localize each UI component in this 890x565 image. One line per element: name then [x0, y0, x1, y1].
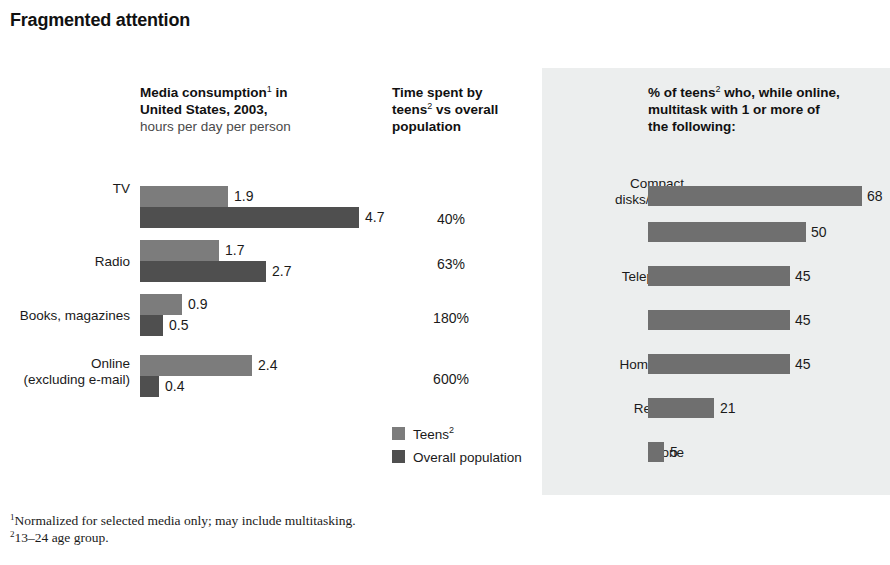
bar-none: [648, 442, 664, 462]
bar-value-overall-radio: 2.7: [272, 261, 291, 282]
legend-item-teens: Teens2: [392, 425, 522, 448]
header-media-line2: United States, 2003,: [140, 102, 268, 117]
bar-overall-radio: [140, 261, 266, 282]
bar-value-teens-books: 0.9: [188, 294, 207, 315]
header-media-subtitle: hours per day per person: [140, 119, 291, 134]
bar-overall-books: [140, 315, 163, 336]
time-spent-value-online: 600%: [392, 371, 510, 387]
header-multitask-line1a: % of teens: [648, 85, 716, 100]
bar-value-teens-radio: 1.7: [225, 240, 244, 261]
bar-value-overall-books: 0.5: [169, 315, 188, 336]
header-multitask-line2: multitask with 1 or more of: [648, 102, 820, 117]
legend-item-overall-population: Overall population: [392, 448, 522, 471]
bar-reading: [648, 398, 714, 418]
legend: Teens2 Overall population: [392, 425, 522, 471]
bar-value-none: 5: [670, 442, 678, 462]
row-label-none: None: [554, 445, 684, 461]
bar-teens-books: [140, 294, 182, 315]
header-media-consumption: Media consumption1 in United States, 200…: [140, 84, 380, 135]
bar-value-overall-online: 0.4: [165, 376, 184, 397]
row-label-online-line2: (excluding e-mail): [23, 372, 130, 387]
header-multitask-line3: the following:: [648, 119, 736, 134]
bar-value-teens-tv: 1.9: [234, 186, 253, 207]
bar-overall-online: [140, 376, 159, 397]
footnotes: 1Normalized for selected media only; may…: [10, 512, 356, 546]
bar-overall-tv: [140, 207, 359, 228]
bar-compact-disks-mp3s: [648, 186, 862, 206]
bar-value-compact-disks-mp3s: 68: [867, 186, 883, 206]
header-media-line1b: in: [272, 85, 288, 100]
bar-tv: [648, 222, 806, 242]
footnote-1-text: Normalized for selected media only; may …: [15, 513, 356, 528]
header-multitask-line1b: who, while online,: [721, 85, 840, 100]
bar-teens-online: [140, 355, 252, 376]
header-media-line1: Media consumption: [140, 85, 267, 100]
bar-value-homework: 45: [795, 354, 811, 374]
header-time-line3: population: [392, 119, 461, 134]
header-multitask: % of teens2 who, while online, multitask…: [648, 84, 888, 135]
bar-teens-tv: [140, 186, 228, 207]
bar-homework: [648, 354, 790, 374]
bar-telephone: [648, 266, 790, 286]
legend-swatch-overall-icon: [392, 450, 405, 463]
bar-radio: [648, 310, 790, 330]
legend-label-overall-population: Overall population: [413, 450, 522, 465]
bar-value-teens-online: 2.4: [258, 355, 277, 376]
bar-teens-radio: [140, 240, 219, 261]
bar-value-reading: 21: [720, 398, 736, 418]
bar-value-tv: 50: [811, 222, 827, 242]
row-label-online: Online (excluding e-mail): [6, 356, 130, 388]
page-title: Fragmented attention: [10, 10, 190, 31]
bar-value-overall-tv: 4.7: [365, 207, 384, 228]
row-label-tv: TV: [6, 181, 130, 197]
bar-value-radio: 45: [795, 310, 811, 330]
footnote-2: 213–24 age group.: [10, 529, 356, 546]
legend-teens-footnote-marker: 2: [449, 425, 454, 435]
header-time-line1: Time spent by: [392, 85, 483, 100]
row-label-radio: Radio: [6, 254, 130, 270]
row-label-online-line1: Online: [91, 356, 130, 371]
header-time-line2b: vs overall: [432, 102, 498, 117]
time-spent-value-tv: 40%: [392, 211, 510, 227]
row-label-books-magazines: Books, magazines: [6, 308, 130, 324]
footnote-2-text: 13–24 age group.: [15, 530, 109, 545]
legend-swatch-teens-icon: [392, 427, 405, 440]
time-spent-value-radio: 63%: [392, 256, 510, 272]
footnote-1: 1Normalized for selected media only; may…: [10, 512, 356, 529]
bar-value-telephone: 45: [795, 266, 811, 286]
header-time-line2a: teens: [392, 102, 427, 117]
time-spent-value-books: 180%: [392, 310, 510, 326]
header-time-spent: Time spent by teens2 vs overall populati…: [392, 84, 532, 135]
legend-label-teens: Teens: [413, 427, 449, 442]
exhibit-fragmented-attention: Fragmented attention Media consumption1 …: [0, 0, 890, 565]
